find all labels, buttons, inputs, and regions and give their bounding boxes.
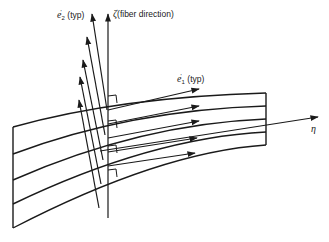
laminate-diagram xyxy=(0,0,329,242)
e1-label: e'1 (typ) xyxy=(177,73,204,85)
zeta-label: ζ(fiber direction) xyxy=(113,9,174,19)
e2-label: e'2 (typ) xyxy=(57,9,84,21)
eta-label: η xyxy=(311,124,316,134)
laminate-body xyxy=(13,93,266,228)
layer-line-4 xyxy=(13,132,266,204)
eta-axis xyxy=(100,117,318,151)
